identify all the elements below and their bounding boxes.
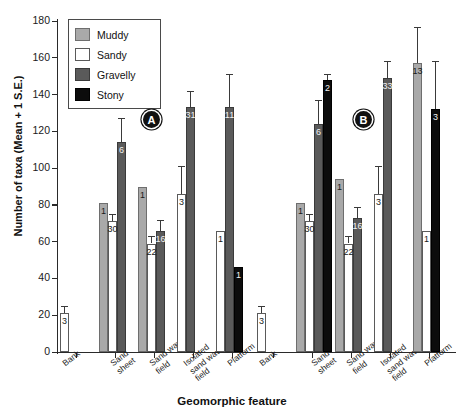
bar-value-label: 3 [433,112,438,122]
bar-value-label: 11 [225,110,234,120]
panel-marker-a: A [143,111,160,128]
bar-value-label: 1 [218,234,223,244]
error-bar-line [318,100,319,124]
error-bar-line [160,220,161,231]
bar-gravelly-sand-sheet: 6 [117,142,126,352]
error-bar-cap [118,118,125,119]
y-tick-label: 140 [0,88,50,100]
bar-value-label: 3 [376,197,381,207]
error-bar-line [417,27,418,64]
bar-sandy-isolated-sand-wave-field: 3 [177,194,186,352]
bar-value-label: 13 [412,66,422,76]
bar-value-label: 1 [140,190,145,200]
bar-value-label: 3 [259,316,264,326]
bar-muddy-platform: 13 [413,63,422,352]
error-bar-line [151,236,152,243]
error-bar-cap [345,236,352,237]
error-bar-cap [109,214,116,215]
bar-value-label: 30 [304,224,314,234]
error-bar-line [261,306,262,313]
legend-swatch-muddy [75,28,90,41]
error-bar-line [435,61,436,109]
error-bar-line [181,166,182,194]
bar-sandy-platform: 1 [422,231,431,352]
bar-value-label: 3 [62,316,67,326]
y-tick-label: 100 [0,161,50,173]
legend-swatch-gravelly [75,68,90,81]
bar-gravelly-isolated-sand-wave-field: 33 [383,78,392,352]
bar-value-label: 1 [424,234,429,244]
bar-value-label: 6 [316,127,321,137]
bar-value-label: 22 [343,247,353,257]
bar-gravelly-sand-wave-field: 16 [353,218,362,352]
bar-sandy-bank: 3 [257,313,266,352]
error-bar-line [348,236,349,243]
error-bar-line [387,61,388,78]
error-bar-line [190,91,191,108]
bar-muddy-sand-wave-field: 1 [138,187,147,353]
legend-swatch-sandy [75,48,90,61]
bar-value-label: 31 [185,110,195,120]
error-bar-cap [178,166,185,167]
y-tick-label: 60 [0,235,50,247]
bar-value-label: 1 [101,206,106,216]
legend-item-muddy: Muddy [75,25,154,44]
bar-value-label: 16 [352,221,362,231]
y-tick-label: 180 [0,14,50,26]
error-bar-cap [414,27,421,28]
error-bar-cap [148,236,155,237]
bar-sandy-sand-wave-field: 22 [344,244,353,352]
error-bar-cap [258,306,265,307]
error-bar-cap [432,61,439,62]
y-tick-label: 20 [0,308,50,320]
legend-swatch-stony [75,88,90,101]
y-tick-label: 40 [0,271,50,283]
bar-sandy-bank: 3 [60,313,69,352]
error-bar-cap [324,74,331,75]
bar-sandy-platform: 1 [216,231,225,352]
legend-item-stony: Stony [75,85,154,104]
bar-value-label: 6 [119,145,124,155]
bar-stony-platform: 3 [431,109,440,352]
bar-stony-sand-sheet: 2 [323,80,332,352]
error-bar-line [309,214,310,221]
error-bar-cap [157,220,164,221]
legend-label-muddy: Muddy [97,29,129,41]
bar-value-label: 1 [298,206,303,216]
bar-value-label: 30 [107,224,117,234]
error-bar-cap [315,100,322,101]
y-tick-label: 120 [0,124,50,136]
y-axis-title: Number of taxa (Mean + 1 S.E.) [12,6,24,306]
error-bar-cap [384,61,391,62]
bar-sandy-sand-wave-field: 22 [147,244,156,352]
bar-muddy-sand-wave-field: 1 [335,179,344,352]
y-tick-label: 160 [0,51,50,63]
y-tick-label: 80 [0,198,50,210]
bar-value-label: 16 [155,234,165,244]
bar-value-label: 2 [325,83,330,93]
error-bar-line [112,214,113,221]
bar-value-label: 3 [179,197,184,207]
error-bar-cap [354,207,361,208]
bar-gravelly-isolated-sand-wave-field: 31 [186,107,195,352]
x-axis-title: Geomorphic feature [0,395,464,407]
panel-marker-b: B [355,111,372,128]
error-bar-line [64,306,65,313]
legend-label-gravelly: Gravelly [97,69,136,81]
chart-figure: 020406080100120140160180 Number of taxa … [0,0,464,419]
legend-item-sandy: Sandy [75,45,154,64]
error-bar-cap [61,306,68,307]
bar-value-label: 22 [146,247,156,257]
bar-sandy-isolated-sand-wave-field: 3 [374,194,383,352]
error-bar-line [121,118,122,142]
bar-sandy-sand-sheet: 30 [305,221,314,352]
error-bar-cap [226,74,233,75]
error-bar-line [229,74,230,107]
legend-label-stony: Stony [97,89,124,101]
error-bar-cap [375,166,382,167]
bar-gravelly-sand-sheet: 6 [314,124,323,352]
y-tick-label: 0 [0,345,50,357]
legend-label-sandy: Sandy [97,49,127,61]
error-bar-cap [187,91,194,92]
bar-gravelly-platform: 11 [225,107,234,352]
